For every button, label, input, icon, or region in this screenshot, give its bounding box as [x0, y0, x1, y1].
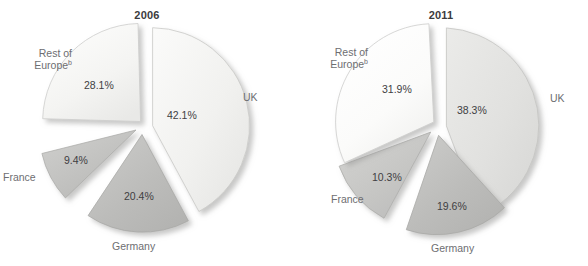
- pie-value-rest-of-europe-2006: 28.1%: [84, 79, 114, 91]
- pie-value-germany-2011: 19.6%: [437, 200, 467, 212]
- pie-chart-figure: 2006: [0, 0, 588, 266]
- rest-of-europe-line2-2011: Europe: [330, 58, 364, 70]
- pie-label-uk-2006: UK: [243, 92, 258, 104]
- pie-value-uk-2011: 38.3%: [457, 104, 487, 116]
- pie-value-rest-of-europe-2011: 31.9%: [382, 83, 412, 95]
- pie-2011-svg: [294, 0, 588, 266]
- pie-value-france-2006: 9.4%: [64, 154, 88, 166]
- rest-of-europe-line2-2006: Europe: [34, 59, 68, 71]
- pie-label-france-2006: France: [3, 172, 36, 184]
- pie-label-rest-of-europe-2006: Rest of Europeb: [0, 48, 72, 71]
- pie-label-germany-2006: Germany: [112, 241, 155, 253]
- footnote-marker-b-2011: b: [364, 57, 368, 64]
- pie-label-germany-2011: Germany: [431, 243, 474, 255]
- chart-panel-2011: 2011: [294, 0, 588, 266]
- pie-value-france-2011: 10.3%: [372, 171, 402, 183]
- pie-label-france-2011: France: [331, 194, 364, 206]
- pie-label-uk-2011: UK: [550, 93, 565, 105]
- pie-value-germany-2006: 20.4%: [124, 190, 154, 202]
- pie-label-rest-of-europe-2011: Rest of Europeb: [290, 47, 368, 70]
- pie-value-uk-2006: 42.1%: [167, 109, 197, 121]
- pie-2006-svg: [0, 0, 294, 266]
- rest-of-europe-line1-2011: Rest of: [335, 46, 368, 58]
- chart-panel-2006: 2006: [0, 0, 294, 266]
- rest-of-europe-line1-2006: Rest of: [39, 47, 72, 59]
- footnote-marker-b-2006: b: [68, 58, 72, 65]
- pie-slice-rest-of-europe-2006: [43, 24, 141, 122]
